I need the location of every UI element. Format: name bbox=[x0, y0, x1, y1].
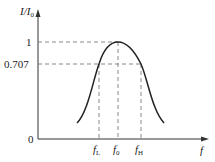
x-tick-fL: fL bbox=[93, 144, 100, 157]
x-tick-f0: f0 bbox=[113, 144, 120, 157]
x-axis-arrow-icon bbox=[201, 137, 209, 142]
y-axis-label: I/I0 bbox=[20, 6, 34, 19]
x-axis-label: f bbox=[200, 145, 203, 156]
x-tick-fH: fH bbox=[135, 144, 143, 157]
resonance-curve bbox=[77, 42, 164, 123]
y-tick-0707: 0.707 bbox=[4, 59, 29, 70]
guide-lines bbox=[38, 42, 141, 139]
origin-label: 0 bbox=[28, 134, 34, 145]
y-axis-arrow-icon bbox=[36, 9, 41, 17]
y-tick-1: 1 bbox=[26, 37, 32, 48]
